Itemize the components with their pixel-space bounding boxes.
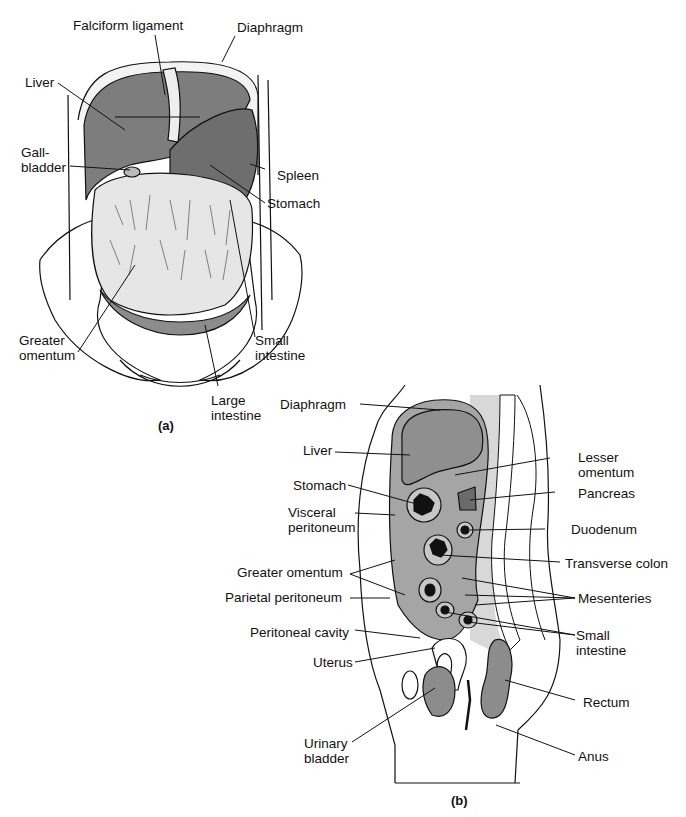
label-liver-a: Liver (25, 75, 54, 90)
label-stomach-b: Stomach (293, 478, 346, 493)
label-urinary-bladder: Urinary bladder (304, 736, 349, 766)
label-gallbladder: Gall- bladder (21, 145, 66, 175)
label-liver-b: Liver (303, 443, 332, 458)
label-rectum: Rectum (583, 695, 630, 710)
label-diaphragm-b: Diaphragm (280, 397, 346, 412)
label-mesenteries: Mesenteries (578, 591, 652, 606)
label-spleen: Spleen (277, 168, 319, 183)
label-peritoneal-cavity: Peritoneal cavity (250, 625, 349, 640)
label-transverse-colon: Transverse colon (565, 556, 668, 571)
label-stomach-a: Stomach (267, 196, 320, 211)
label-large-intestine: Large intestine (211, 393, 261, 423)
panel-b-illustration (335, 385, 575, 783)
label-uterus: Uterus (313, 655, 353, 670)
label-visceral-peritoneum: Visceral peritoneum (288, 505, 356, 535)
label-duodenum: Duodenum (571, 522, 637, 537)
label-diaphragm-a: Diaphragm (237, 20, 303, 35)
caption-panel-b: (b) (451, 793, 468, 808)
label-small-intestine-b: Small intestine (576, 628, 626, 658)
label-greater-omentum-b: Greater omentum (237, 565, 343, 580)
label-small-intestine-a: Small intestine (255, 333, 305, 363)
caption-panel-a: (a) (158, 418, 174, 433)
label-falciform-ligament: Falciform ligament (73, 18, 183, 33)
label-parietal-peritoneum: Parietal peritoneum (225, 590, 342, 605)
label-pancreas: Pancreas (578, 486, 635, 501)
label-lesser-omentum: Lesser omentum (578, 450, 634, 480)
label-anus: Anus (578, 749, 609, 764)
label-greater-omentum-a: Greater omentum (19, 333, 75, 363)
